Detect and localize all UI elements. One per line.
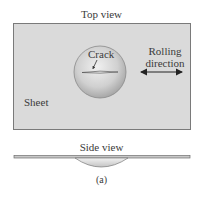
rolling-direction-label: Rolling direction xyxy=(140,45,190,69)
side-view-title: Side view xyxy=(0,141,203,153)
side-view-bulge xyxy=(75,158,128,167)
figure-caption: (a) xyxy=(0,174,203,186)
sheet-label: Sheet xyxy=(24,96,48,108)
rolling-direction-line1: Rolling xyxy=(140,45,190,57)
side-view-plate xyxy=(14,156,190,159)
rolling-direction-line2: direction xyxy=(140,57,190,69)
crack-label: Crack xyxy=(88,48,114,60)
top-view-title: Top view xyxy=(0,8,203,20)
